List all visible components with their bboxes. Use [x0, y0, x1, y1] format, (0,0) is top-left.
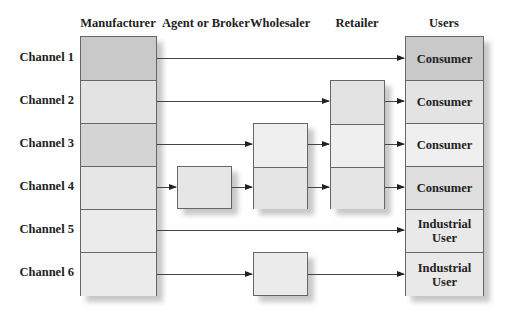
- channel-4-label: Channel 4: [0, 179, 74, 194]
- channel-2-label: Channel 2: [0, 93, 74, 108]
- wholesaler-box-channels-3-4: [253, 123, 308, 209]
- manufacturer-cell-6: [81, 252, 156, 296]
- arrow-channel-2-retailer-to-consumer: [385, 101, 404, 102]
- user-label-channel-6-line2: User: [432, 275, 457, 289]
- user-label-channel-1: Consumer: [417, 52, 473, 66]
- channel-5-label: Channel 5: [0, 222, 74, 237]
- arrow-channel-4-retailer-to-consumer: [385, 187, 404, 188]
- user-label-channel-5-line1: Industrial: [418, 217, 472, 231]
- user-cell-channel-2: Consumer: [406, 80, 483, 123]
- wholesaler-cell-channel-3: [254, 124, 307, 167]
- arrow-channel-3-retailer-to-consumer: [385, 144, 404, 145]
- retailer-cell-channel-4: [331, 167, 384, 209]
- user-label-channel-2: Consumer: [417, 95, 473, 109]
- arrow-channel-3-wholesaler-to-retailer: [308, 144, 329, 145]
- user-label-channel-5-line2: User: [432, 231, 457, 245]
- header-agent-broker: Agent or Broker: [162, 16, 246, 31]
- user-label-channel-4: Consumer: [417, 181, 473, 195]
- arrow-channel-5-manufacturer-to-industrial-user: [157, 230, 404, 231]
- user-cell-channel-4: Consumer: [406, 166, 483, 209]
- manufacturer-cell-4: [81, 166, 156, 209]
- user-cell-channel-1: Consumer: [406, 37, 483, 80]
- arrow-channel-3-manufacturer-to-wholesaler: [157, 144, 252, 145]
- user-label-channel-6-line1: Industrial: [418, 261, 472, 275]
- manufacturer-cell-5: [81, 209, 156, 252]
- retailer-cell-channel-2: [331, 81, 384, 124]
- wholesaler-box-channel-6: [253, 252, 308, 296]
- arrow-channel-6-manufacturer-to-wholesaler: [157, 274, 252, 275]
- arrow-channel-4-wholesaler-to-retailer: [308, 187, 329, 188]
- arrow-channel-6-wholesaler-to-industrial-user: [308, 274, 404, 275]
- retailer-box: [330, 80, 385, 209]
- user-label-channel-3: Consumer: [417, 138, 473, 152]
- arrow-channel-4-agent-to-wholesaler: [232, 187, 252, 188]
- wholesaler-cell-channel-4: [254, 167, 307, 209]
- manufacturer-cell-3: [81, 123, 156, 166]
- header-wholesaler: Wholesaler: [250, 16, 310, 31]
- user-cell-channel-6: IndustrialUser: [406, 252, 483, 296]
- channel-3-label: Channel 3: [0, 136, 74, 151]
- manufacturer-column: [80, 36, 157, 296]
- header-manufacturer: Manufacturer: [80, 16, 156, 31]
- channel-1-label: Channel 1: [0, 50, 74, 65]
- user-cell-channel-3: Consumer: [406, 123, 483, 166]
- user-cell-channel-5: IndustrialUser: [406, 209, 483, 252]
- arrow-channel-1-manufacturer-to-consumer: [157, 58, 404, 59]
- channel-6-label: Channel 6: [0, 265, 74, 280]
- agent-broker-box: [177, 166, 232, 209]
- retailer-cell-channel-3: [331, 124, 384, 167]
- header-retailer: Retailer: [330, 16, 384, 31]
- manufacturer-cell-2: [81, 80, 156, 123]
- arrow-channel-4-manufacturer-to-agent: [157, 187, 176, 188]
- manufacturer-cell-1: [81, 37, 156, 80]
- users-column: Consumer Consumer Consumer Consumer Indu…: [405, 36, 484, 296]
- arrow-channel-2-manufacturer-to-retailer: [157, 101, 329, 102]
- header-users: Users: [405, 16, 483, 31]
